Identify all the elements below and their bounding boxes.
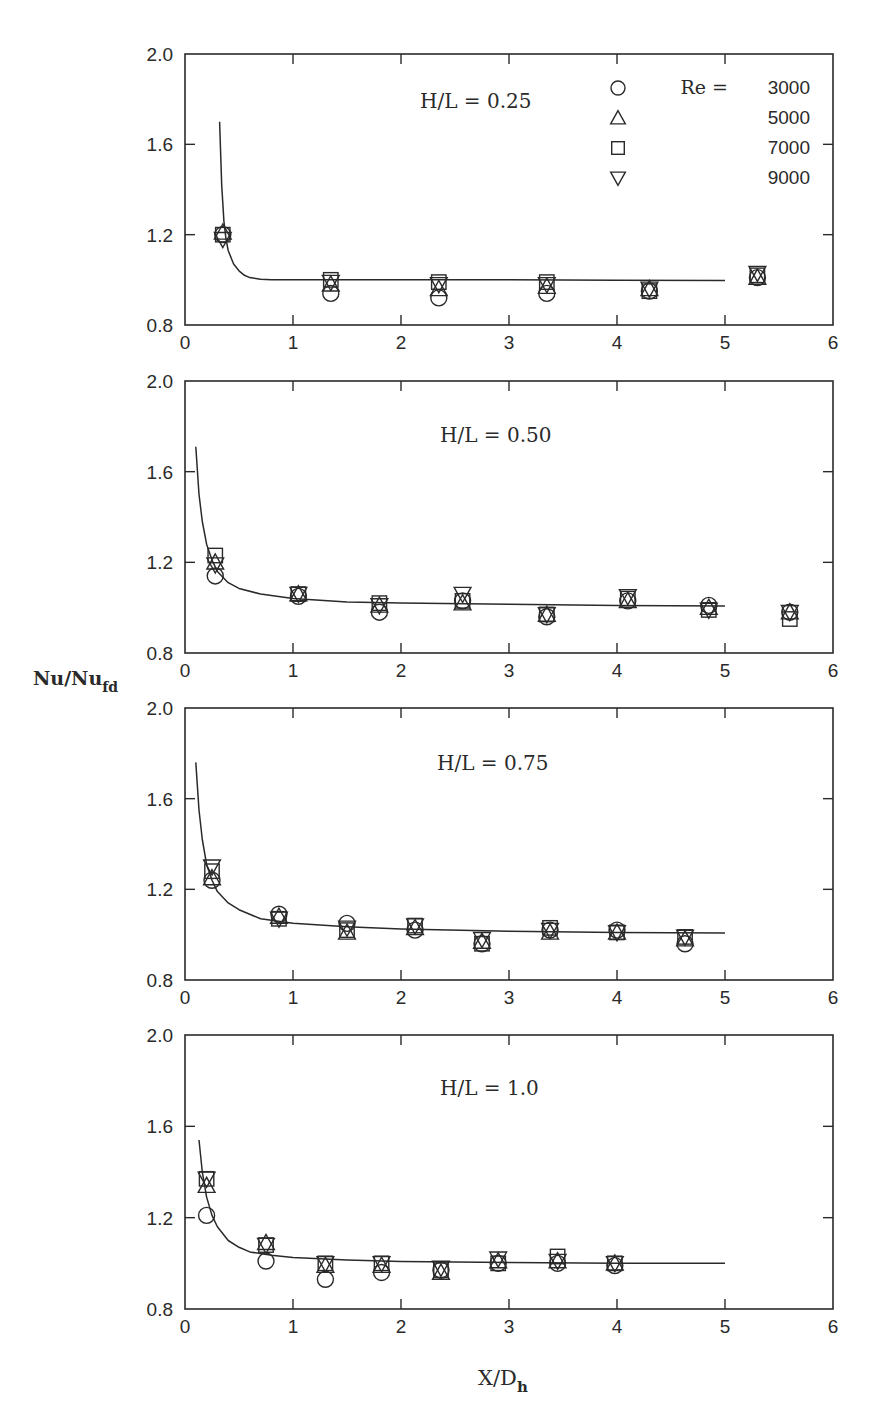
y-tick-label: 1.2 [147,1208,173,1229]
triangle-up-marker [198,1177,215,1192]
y-tick-label: 1.2 [147,552,173,573]
x-tick-label: 4 [612,1316,623,1337]
legend-label-7000: 7000 [768,137,810,158]
x-tick-label: 4 [612,660,623,681]
x-axis-label: X/Dh [478,1366,528,1396]
x-tick-label: 2 [396,987,407,1008]
x-tick-label: 6 [828,332,839,353]
triangle-down-marker [198,1172,215,1187]
panels: 01234560.81.21.62.0H/L = 0.2501234560.81… [147,44,839,1337]
y-tick-label: 2.0 [147,698,173,719]
panel-title: H/L = 1.0 [440,1076,539,1100]
x-tick-label: 5 [720,1316,731,1337]
x-tick-label: 1 [288,660,299,681]
y-tick-label: 0.8 [147,970,173,991]
triangle-down-marker [474,932,491,947]
x-axis-label-sub: h [517,1378,528,1396]
x-tick-label: 6 [828,660,839,681]
x-tick-label: 2 [396,1316,407,1337]
y-tick-label: 1.6 [147,1116,173,1137]
series-3000 [215,227,766,306]
circle-icon [611,81,625,95]
x-tick-label: 5 [720,660,731,681]
y-tick-label: 1.2 [147,879,173,900]
y-tick-label: 1.6 [147,134,173,155]
x-tick-label: 1 [288,1316,299,1337]
legend-label-9000: 9000 [768,167,810,188]
circle-marker [258,1253,274,1269]
triangle-down-marker [490,1252,507,1267]
x-tick-label: 0 [180,987,191,1008]
legend-label-5000: 5000 [768,107,810,128]
x-tick-label: 0 [180,332,191,353]
series-5000 [214,224,765,296]
x-tick-label: 2 [396,332,407,353]
plot-frame [185,381,833,653]
y-axis-label: Nu/Nufd [33,667,118,695]
legend-title: Re = [680,76,728,98]
y-tick-label: 1.2 [147,225,173,246]
x-tick-label: 0 [180,660,191,681]
y-tick-label: 2.0 [147,371,173,392]
x-tick-label: 6 [828,1316,839,1337]
chart-panel-2: 01234560.81.21.62.0H/L = 0.50 [147,371,839,681]
x-tick-label: 6 [828,987,839,1008]
series-9000 [198,1172,623,1276]
series-7000 [216,227,765,298]
y-axis-label-main: Nu/Nu [33,667,102,689]
x-tick-label: 3 [504,332,515,353]
panel-title: H/L = 0.50 [440,423,551,447]
correlation-curve [199,1140,725,1263]
y-tick-label: 0.8 [147,1299,173,1320]
series-9000 [214,232,765,297]
circle-marker [323,285,339,301]
legend: Re = 3000 5000 7000 9000 [611,76,810,188]
legend-markers [611,81,626,185]
x-tick-label: 0 [180,1316,191,1337]
y-tick-label: 0.8 [147,315,173,336]
triangle-down-icon [611,172,626,185]
x-tick-label: 3 [504,987,515,1008]
correlation-curve [220,122,725,281]
y-tick-label: 0.8 [147,643,173,664]
x-tick-label: 3 [504,660,515,681]
y-tick-label: 1.6 [147,462,173,483]
panel-title: H/L = 0.25 [420,89,531,113]
circle-marker [317,1271,333,1287]
figure: 01234560.81.21.62.0H/L = 0.2501234560.81… [0,0,869,1410]
y-tick-label: 1.6 [147,789,173,810]
chart-panel-4: 01234560.81.21.62.0H/L = 1.0 [147,1025,839,1337]
square-icon [612,142,625,155]
x-tick-label: 5 [720,332,731,353]
plot-frame [185,708,833,980]
y-tick-label: 2.0 [147,44,173,65]
triangle-up-icon [611,111,626,124]
triangle-down-marker [407,919,424,934]
y-axis-label-sub: fd [102,679,118,695]
y-tick-label: 2.0 [147,1025,173,1046]
panel-title: H/L = 0.75 [437,751,548,775]
legend-label-3000: 3000 [768,77,810,98]
x-tick-label: 3 [504,1316,515,1337]
x-tick-label: 1 [288,987,299,1008]
x-tick-label: 1 [288,332,299,353]
x-tick-label: 2 [396,660,407,681]
x-tick-label: 4 [612,332,623,353]
chart-panel-1: 01234560.81.21.62.0H/L = 0.25 [147,44,839,353]
chart-panel-3: 01234560.81.21.62.0H/L = 0.75 [147,698,839,1008]
series-9000 [204,860,694,948]
x-tick-label: 4 [612,987,623,1008]
correlation-curve [196,447,725,606]
x-axis-label-main: X/D [478,1366,517,1390]
x-tick-label: 5 [720,987,731,1008]
